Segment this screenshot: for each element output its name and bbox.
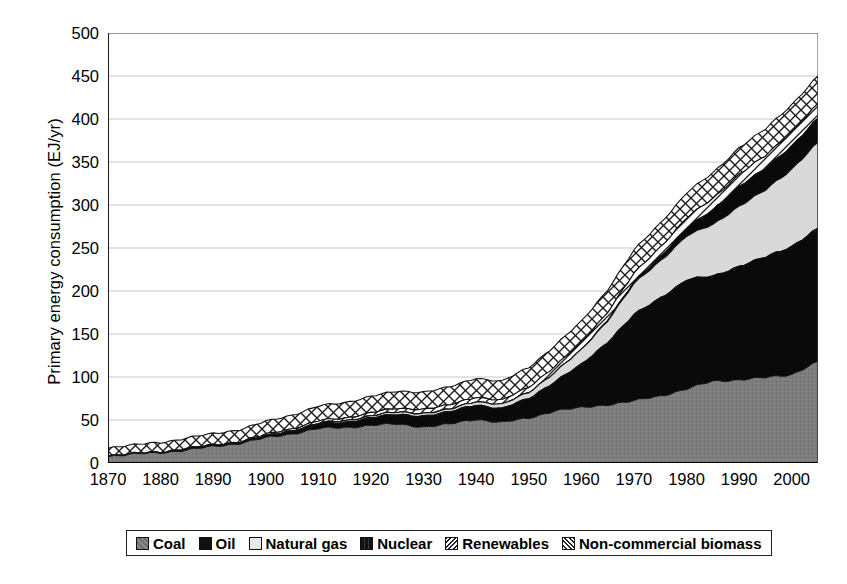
legend-swatch-icon — [199, 537, 212, 550]
plot-area — [108, 33, 818, 463]
y-tick-label: 400 — [53, 111, 99, 128]
y-tick-label: 50 — [53, 412, 99, 429]
y-tick-label: 300 — [53, 197, 99, 214]
legend-entry-natural-gas[interactable]: Natural gas — [249, 536, 348, 551]
y-tick-label: 250 — [53, 240, 99, 257]
legend-entry-renewables[interactable]: Renewables — [445, 536, 549, 551]
legend-entry-non-commercial-biomass[interactable]: Non-commercial biomass — [562, 536, 762, 551]
legend-label: Nuclear — [377, 536, 432, 551]
legend-label: Oil — [216, 536, 236, 551]
y-tick-label: 100 — [53, 369, 99, 386]
y-tick-label: 450 — [53, 68, 99, 85]
y-tick-label: 500 — [53, 25, 99, 42]
legend-label: Natural gas — [266, 536, 348, 551]
y-tick-label: 200 — [53, 283, 99, 300]
legend-entry-oil[interactable]: Oil — [199, 536, 236, 551]
legend-swatch-icon — [136, 537, 149, 550]
chart-legend: CoalOilNatural gasNuclearRenewablesNon-c… — [126, 530, 772, 556]
legend-swatch-icon — [360, 537, 373, 550]
x-axis-tick-labels: 1870188018901900191019201930194019501960… — [0, 471, 847, 497]
legend-entry-coal[interactable]: Coal — [136, 536, 186, 551]
x-tick-label: 2000 — [757, 471, 827, 488]
legend-entry-nuclear[interactable]: Nuclear — [360, 536, 432, 551]
y-tick-label: 150 — [53, 326, 99, 343]
energy-consumption-chart: Primary energy consumption (EJ/yr) 05010… — [0, 0, 847, 584]
legend-label: Non-commercial biomass — [579, 536, 762, 551]
area-series-group — [108, 76, 818, 463]
legend-label: Renewables — [462, 536, 549, 551]
legend-label: Coal — [153, 536, 186, 551]
y-tick-label: 350 — [53, 154, 99, 171]
legend-swatch-icon — [445, 537, 458, 550]
legend-swatch-icon — [562, 537, 575, 550]
stacked-area-plot — [108, 33, 818, 463]
legend-swatch-icon — [249, 537, 262, 550]
